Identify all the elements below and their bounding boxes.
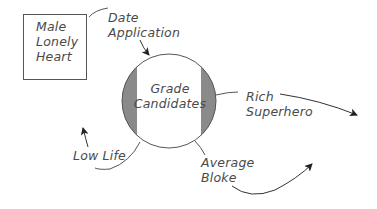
male-lonely-heart-label: Male Lonely Heart xyxy=(36,19,78,64)
label-line: Lonely xyxy=(36,34,78,49)
label-line: Candidates xyxy=(130,96,210,111)
circle-to-bloke-connector xyxy=(195,141,205,155)
average-bloke-label: Average Bloke xyxy=(201,155,254,185)
low-life-label: Low Life xyxy=(73,148,126,163)
date-application-label: Date Application xyxy=(108,10,180,40)
circle-to-rich-connector xyxy=(216,92,238,95)
box-to-date-connector xyxy=(89,8,108,17)
rich-superhero-label: Rich Superhero xyxy=(246,89,313,119)
label-line: Low Life xyxy=(73,148,126,163)
label-line: Application xyxy=(108,25,180,40)
label-line: Rich xyxy=(246,89,313,104)
lowlife-arrow xyxy=(83,128,88,147)
label-line: Average xyxy=(201,155,254,170)
label-line: Male xyxy=(36,19,78,34)
date-to-circle-arrow xyxy=(140,40,149,55)
label-line: Superhero xyxy=(246,104,313,119)
label-line: Bloke xyxy=(201,170,254,185)
label-line: Grade xyxy=(140,81,200,96)
grade-candidates-label: Grade Candidates xyxy=(140,81,200,111)
label-line: Heart xyxy=(36,49,78,64)
label-line: Date xyxy=(108,10,180,25)
